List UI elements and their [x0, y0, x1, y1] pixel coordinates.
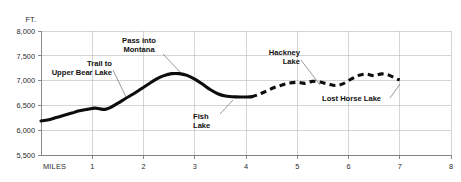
x-tick-label: 8 [449, 162, 453, 171]
x-tick-label: 4 [244, 162, 248, 171]
x-tick-label: 6 [346, 162, 350, 171]
y-tick-label: 7,000 [17, 76, 36, 85]
x-tick-label: 7 [398, 162, 402, 171]
annotation-label-pass-into-montana: Pass intoMontana [122, 36, 156, 54]
y-tick-label: 5,500 [17, 151, 36, 160]
x-tick-label: 2 [141, 162, 145, 171]
y-axis-unit-label: FT. [25, 15, 36, 24]
x-tick-label: 1 [90, 162, 94, 171]
elevation-profile-chart: 5,5006,0006,5007,0007,5008,000 12345678 … [0, 0, 461, 182]
x-tick-label: 5 [295, 162, 299, 171]
chart-canvas: 5,5006,0006,5007,0007,5008,000 12345678 … [0, 0, 461, 182]
annotation-label-fish-lake: FishLake [193, 112, 210, 130]
x-axis-label: MILES [43, 162, 66, 171]
y-tick-label: 7,500 [17, 52, 36, 61]
annotation-label-lost-horse-lake: Lost Horse Lake [322, 94, 381, 103]
y-tick-label: 6,000 [17, 126, 36, 135]
y-tick-label: 6,500 [17, 101, 36, 110]
y-tick-label: 8,000 [17, 27, 36, 36]
x-tick-label: 3 [193, 162, 197, 171]
